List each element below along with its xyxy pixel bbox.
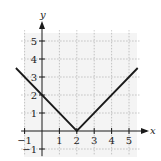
y-tick-label: 4 <box>31 54 37 65</box>
y-axis-arrow-icon <box>39 21 45 29</box>
y-axis-label: y <box>39 9 46 20</box>
y-tick-label: 5 <box>31 36 37 47</box>
x-axis-label: x <box>150 125 156 136</box>
x-tick-label: 3 <box>91 135 97 146</box>
y-tick-label: 3 <box>31 72 37 83</box>
x-tick-label: 4 <box>108 135 114 146</box>
y-tick-label: 2 <box>31 90 37 101</box>
y-tick-label: −1 <box>22 144 37 155</box>
y-tick-label: 1 <box>31 108 37 119</box>
chart-svg: −112345−112345 x y <box>0 0 161 161</box>
x-axis-arrow-icon <box>141 128 149 134</box>
x-tick-label: 2 <box>74 135 80 146</box>
x-tick-label: 5 <box>126 135 132 146</box>
x-tick-label: 1 <box>56 135 62 146</box>
